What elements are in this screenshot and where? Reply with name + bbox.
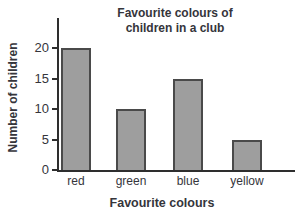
y-axis-tick-20	[52, 47, 57, 49]
bar-green	[116, 109, 146, 170]
category-label-blue: blue	[163, 174, 213, 188]
category-label-red: red	[51, 174, 101, 188]
bar-chart: Favourite colours of children in a club …	[0, 0, 304, 219]
y-axis-tick-label-0: 0	[21, 161, 49, 179]
y-axis-tick-10	[52, 108, 57, 110]
y-axis-tick-label-10: 10	[21, 100, 49, 118]
y-axis-tick-5	[52, 139, 57, 141]
y-axis-tick-0	[52, 169, 57, 171]
y-axis-label: Number of children	[6, 23, 21, 173]
x-axis-category-labels: redgreenblueyellow	[59, 174, 295, 190]
y-axis-tick-label-20: 20	[21, 39, 49, 57]
y-axis-tick-15	[52, 78, 57, 80]
y-axis-tick-label-5: 5	[21, 131, 49, 149]
bar-yellow	[232, 140, 262, 170]
category-label-green: green	[106, 174, 156, 188]
y-axis-tick-label-15: 15	[21, 70, 49, 88]
bar-blue	[173, 79, 203, 170]
category-label-yellow: yellow	[222, 174, 272, 188]
x-axis-title: Favourite colours	[57, 196, 267, 210]
bar-red	[61, 48, 91, 170]
plot-area: 05101520	[57, 18, 295, 172]
